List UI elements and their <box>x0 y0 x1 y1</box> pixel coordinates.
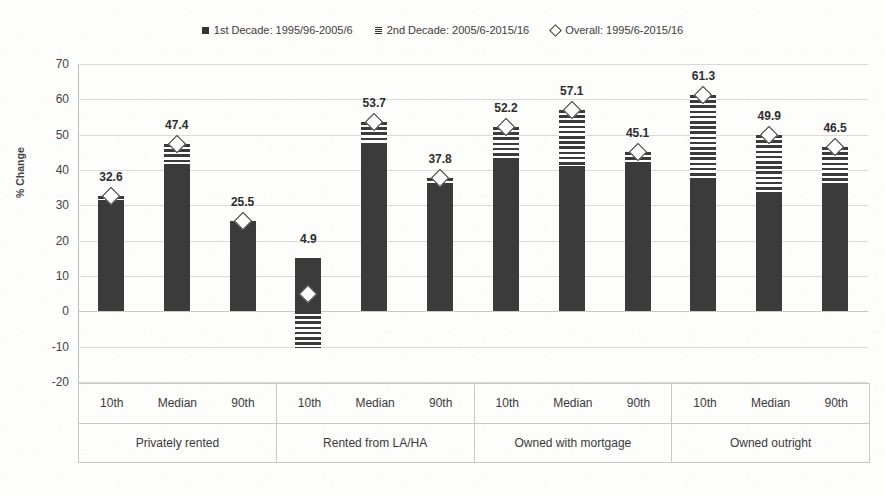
legend-item-1st-decade: 1st Decade: 1995/96-2005/6 <box>202 24 353 36</box>
legend-label-2nd-decade: 2nd Decade: 2005/6-2015/16 <box>387 24 530 36</box>
bar-value-label: 25.5 <box>231 195 254 209</box>
y-tick-label--20: -20 <box>52 375 69 389</box>
y-tick-label-20: 20 <box>56 234 69 248</box>
category-tick-label: 10th <box>79 396 145 410</box>
category-tick-label: 10th <box>277 396 343 410</box>
bar-segment-1st-decade <box>98 200 124 311</box>
bar-segment-1st-decade <box>164 164 190 312</box>
bar-value-label: 4.9 <box>300 232 317 246</box>
category-tick-label: Median <box>145 396 211 410</box>
bar-value-label: 45.1 <box>626 126 649 140</box>
category-tick-row: 10thMedian90th <box>672 384 869 424</box>
category-tick-row: 10thMedian90th <box>79 384 276 424</box>
plot-area: 706050403020100-10-20 32.647.425.54.953.… <box>78 64 868 382</box>
category-tick-label: 90th <box>210 396 276 410</box>
y-tick-label-50: 50 <box>56 128 69 142</box>
bar-column[interactable]: 4.9 <box>295 64 321 382</box>
category-group: 10thMedian90thPrivately rented <box>79 384 277 462</box>
bar-segment-1st-decade <box>756 192 782 311</box>
category-group-label: Privately rented <box>79 424 276 463</box>
category-group-label: Rented from LA/HA <box>277 424 474 463</box>
bar-column[interactable]: 46.5 <box>822 64 848 382</box>
category-group-label: Owned with mortgage <box>475 424 672 463</box>
bar-column[interactable]: 45.1 <box>625 64 651 382</box>
bar-segment-1st-decade <box>625 163 651 311</box>
category-tick-row: 10thMedian90th <box>277 384 474 424</box>
bar-value-label: 46.5 <box>823 121 846 135</box>
bar-segment-1st-decade <box>690 178 716 312</box>
chart-legend: 1st Decade: 1995/96-2005/6 2nd Decade: 2… <box>0 24 885 36</box>
bar-series-container: 32.647.425.54.953.737.852.257.145.161.34… <box>78 64 868 382</box>
bar-column[interactable]: 52.2 <box>493 64 519 382</box>
y-tick-label-70: 70 <box>56 57 69 71</box>
category-group: 10thMedian90thOwned outright <box>672 384 869 462</box>
legend-label-1st-decade: 1st Decade: 1995/96-2005/6 <box>214 24 353 36</box>
bar-value-label: 61.3 <box>692 69 715 83</box>
bar-segment-1st-decade <box>361 144 387 311</box>
category-group-label: Owned outright <box>672 424 869 463</box>
bar-value-label: 32.6 <box>99 170 122 184</box>
y-tick-label-30: 30 <box>56 198 69 212</box>
category-tick-row: 10thMedian90th <box>475 384 672 424</box>
bar-value-label: 53.7 <box>363 96 386 110</box>
bar-value-label: 47.4 <box>165 118 188 132</box>
category-tick-label: 90th <box>408 396 474 410</box>
y-tick-label--10: -10 <box>52 340 69 354</box>
y-tick-label-40: 40 <box>56 163 69 177</box>
bar-value-label: 49.9 <box>758 109 781 123</box>
hatched-square-icon <box>375 27 382 34</box>
bar-segment-1st-decade <box>822 183 848 311</box>
bar-segment-1st-decade <box>559 166 585 311</box>
bar-column[interactable]: 25.5 <box>230 64 256 382</box>
category-tick-label: Median <box>342 396 408 410</box>
category-tick-label: Median <box>540 396 606 410</box>
bar-column[interactable]: 32.6 <box>98 64 124 382</box>
bar-value-label: 57.1 <box>560 84 583 98</box>
bar-column[interactable]: 61.3 <box>690 64 716 382</box>
y-tick-label-10: 10 <box>56 269 69 283</box>
bar-value-label: 52.2 <box>494 101 517 115</box>
stacked-bar-chart: 1st Decade: 1995/96-2005/6 2nd Decade: 2… <box>0 0 885 496</box>
legend-item-2nd-decade: 2nd Decade: 2005/6-2015/16 <box>375 24 530 36</box>
bar-column[interactable]: 49.9 <box>756 64 782 382</box>
category-tick-label: 90th <box>606 396 672 410</box>
category-tick-label: Median <box>738 396 804 410</box>
y-axis-title: % Change <box>14 147 26 198</box>
y-tick-label-60: 60 <box>56 92 69 106</box>
bar-column[interactable]: 37.8 <box>427 64 453 382</box>
legend-label-overall: Overall: 1995/6-2015/16 <box>565 24 683 36</box>
category-tick-label: 90th <box>803 396 869 410</box>
bar-column[interactable]: 47.4 <box>164 64 190 382</box>
filled-square-icon <box>202 27 209 34</box>
bar-segment-1st-decade <box>427 186 453 312</box>
bar-value-label: 37.8 <box>428 152 451 166</box>
hollow-diamond-icon <box>549 24 562 37</box>
category-group: 10thMedian90thRented from LA/HA <box>277 384 475 462</box>
category-tick-label: 10th <box>672 396 738 410</box>
legend-item-overall: Overall: 1995/6-2015/16 <box>551 24 683 36</box>
category-axis-table: 10thMedian90thPrivately rented10thMedian… <box>78 383 870 463</box>
y-tick-label-0: 0 <box>62 304 69 318</box>
bar-segment-1st-decade <box>493 158 519 311</box>
bar-segment-2nd-decade <box>690 95 716 178</box>
category-tick-label: 10th <box>475 396 541 410</box>
category-group: 10thMedian90thOwned with mortgage <box>475 384 673 462</box>
bar-column[interactable]: 57.1 <box>559 64 585 382</box>
bar-segment-2nd-decade <box>295 311 321 347</box>
bar-segment-1st-decade <box>230 223 256 311</box>
bar-column[interactable]: 53.7 <box>361 64 387 382</box>
